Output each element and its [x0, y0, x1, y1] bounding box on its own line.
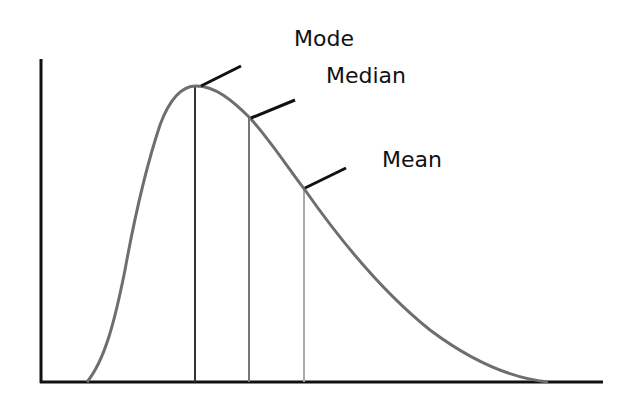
skewed-distribution-diagram	[0, 0, 638, 409]
median-label: Median	[326, 63, 406, 88]
mean-pointer	[305, 168, 346, 188]
mean-label: Mean	[382, 147, 442, 172]
distribution-curve	[87, 86, 548, 382]
median-pointer	[251, 100, 295, 118]
mode-pointer	[201, 66, 241, 86]
mode-label: Mode	[294, 26, 354, 51]
